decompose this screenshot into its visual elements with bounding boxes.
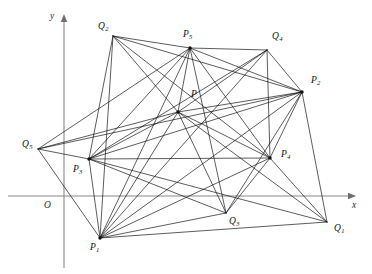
point-label-base: Q	[229, 216, 236, 226]
edge-p2-q1	[302, 92, 327, 222]
point-label-base: P	[281, 149, 287, 159]
edge-p5-q5	[38, 48, 190, 149]
y-axis-arrowhead	[61, 14, 67, 22]
point-label-q5: Q5	[22, 140, 32, 150]
diagram-canvas	[0, 0, 372, 274]
edge-p1-p3	[89, 159, 100, 238]
point-label-subscript: 1	[96, 246, 99, 253]
vertex-dot-p4	[268, 156, 271, 159]
vertex-dot-p3	[87, 157, 90, 160]
point-label-base: P	[191, 89, 197, 99]
edge-p1-p4	[100, 158, 270, 238]
edge-p-q1	[178, 112, 327, 222]
edge-p2-q4	[267, 50, 302, 92]
vertex-dot-p	[176, 110, 179, 113]
edge-p-q2	[113, 36, 178, 112]
point-label-p2: P2	[311, 76, 320, 86]
point-label-p1: P1	[90, 243, 99, 253]
point-label-base: P	[90, 242, 96, 252]
point-label-base: Q	[98, 21, 105, 31]
point-label-subscript: 2	[317, 79, 320, 86]
point-label-subscript: 3	[79, 168, 82, 175]
edge-p3-q2	[89, 36, 113, 159]
edge-p3-p4	[89, 158, 270, 159]
edge-p1-q5	[38, 149, 100, 238]
x-axis-label: x	[352, 201, 356, 211]
point-label-q4: Q4	[272, 32, 282, 42]
point-label-q1: Q1	[334, 224, 344, 234]
point-label-q2: Q2	[98, 22, 108, 32]
edge-p4-q3	[226, 158, 270, 213]
point-label-base: Q	[272, 31, 279, 41]
y-axis-label: y	[50, 12, 54, 22]
edge-p1-q1	[100, 222, 327, 238]
point-label-subscript: 5	[29, 143, 32, 150]
x-axis-arrowhead	[348, 193, 356, 199]
point-label-subscript: 1	[341, 227, 344, 234]
edge-p-p5	[178, 48, 190, 112]
point-label-subscript: 5	[189, 33, 192, 40]
point-label-base: P	[73, 164, 79, 174]
edge-p5-q4	[190, 48, 267, 50]
point-label-p5: P5	[183, 30, 192, 40]
edge-p4-q4	[267, 50, 270, 158]
vertex-dot-p1	[98, 236, 101, 239]
point-label-base: Q	[22, 139, 29, 149]
edge-p2-q2	[113, 36, 302, 92]
point-label-subscript: 4	[279, 35, 282, 42]
point-label-base: P	[311, 75, 317, 85]
point-label-base: Q	[334, 223, 341, 233]
edge-p3-q3	[89, 159, 226, 213]
coordinate-axes	[8, 14, 356, 268]
edge-p2-p5	[190, 48, 302, 92]
geometry-figure: PP1P2P3P4P5Q1Q2Q3Q4Q5 Oxy	[0, 0, 372, 274]
point-label-subscript: 4	[287, 153, 290, 160]
edge-network	[38, 36, 327, 238]
vertex-dot-p2	[300, 90, 303, 93]
edge-p4-q1	[270, 158, 327, 222]
point-label-p4: P4	[281, 150, 290, 160]
point-label-base: P	[183, 29, 189, 39]
edge-p1-p5	[100, 48, 190, 238]
edge-p1-q2	[100, 36, 113, 238]
edge-p3-q1	[89, 159, 327, 222]
edge-p5-q2	[113, 36, 190, 48]
vertex-dot-p5	[188, 46, 191, 49]
origin-label: O	[44, 201, 51, 211]
point-label-p: P	[191, 90, 197, 100]
point-label-p3: P3	[73, 165, 82, 175]
point-label-subscript: 2	[105, 25, 108, 32]
edge-p-p1	[100, 112, 178, 238]
edge-p3-q4	[89, 50, 267, 159]
point-label-subscript: 3	[236, 220, 239, 227]
edge-p3-p5	[89, 48, 190, 159]
point-label-q3: Q3	[229, 217, 239, 227]
